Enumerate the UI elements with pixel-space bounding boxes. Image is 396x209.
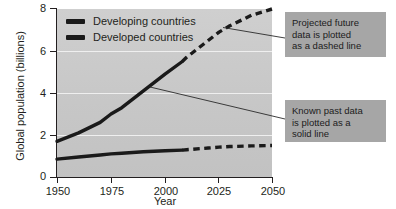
x-tick-2025	[218, 177, 219, 183]
y-axis-line	[56, 8, 57, 178]
callout-known-line-3: solid line	[292, 128, 380, 140]
y-tick-label-8: 8	[28, 3, 46, 14]
x-tick-1950	[57, 177, 58, 183]
gridline-y2	[57, 135, 272, 136]
gridline-y6	[57, 51, 272, 52]
legend-swatch-developed	[66, 35, 85, 40]
callout-projected-line-2: data is plotted	[292, 29, 380, 41]
gridline-y4	[57, 93, 272, 94]
y-tick-8	[50, 8, 56, 9]
y-tick-label-2: 2	[28, 130, 46, 141]
legend: Developing countries Developed countries	[66, 14, 196, 46]
x-tick-label-1950: 1950	[38, 185, 78, 197]
callout-projected-line-3: as a dashed line	[292, 40, 380, 52]
x-tick-label-2025: 2025	[199, 185, 239, 197]
y-tick-6	[50, 51, 56, 52]
y-tick-label-6: 6	[28, 46, 46, 57]
callout-known-past: Known past data is plotted as a solid li…	[285, 100, 386, 142]
x-tick-1975	[111, 177, 112, 183]
x-axis-title: Year	[125, 195, 205, 207]
x-tick-2050	[272, 177, 273, 183]
y-tick-4	[50, 93, 56, 94]
y-tick-label-0: 0	[28, 171, 46, 182]
legend-item-developed: Developed countries	[66, 30, 196, 44]
legend-item-developing: Developing countries	[66, 14, 196, 28]
callout-known-line-2: is plotted as a	[292, 117, 380, 129]
y-tick-2	[50, 135, 56, 136]
y-tick-label-4: 4	[28, 88, 46, 99]
y-tick-0	[50, 177, 56, 178]
legend-label-developing: Developing countries	[93, 15, 196, 27]
y-axis-title: Global population (billions)	[14, 16, 26, 176]
legend-label-developed: Developed countries	[93, 31, 193, 43]
x-tick-2000	[165, 177, 166, 183]
x-tick-label-2050: 2050	[253, 185, 293, 197]
callout-projected-future: Projected future data is plotted as a da…	[285, 12, 386, 57]
chart-figure: 8 6 4 2 0 1950 1975 2000 2025 2050 Globa…	[0, 0, 396, 209]
legend-swatch-developing	[66, 19, 85, 24]
callout-known-line-1: Known past data	[292, 105, 380, 117]
callout-projected-line-1: Projected future	[292, 17, 380, 29]
